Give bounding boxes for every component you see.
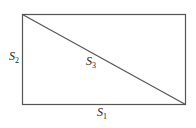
label-s3-diagonal: S3 — [86, 54, 96, 70]
diagram-canvas: S2 S3 S1 — [0, 0, 196, 128]
label-s1-bottom-side: S1 — [97, 105, 107, 121]
diagonal-line — [23, 15, 186, 105]
label-s2-left-side: S2 — [9, 49, 19, 65]
